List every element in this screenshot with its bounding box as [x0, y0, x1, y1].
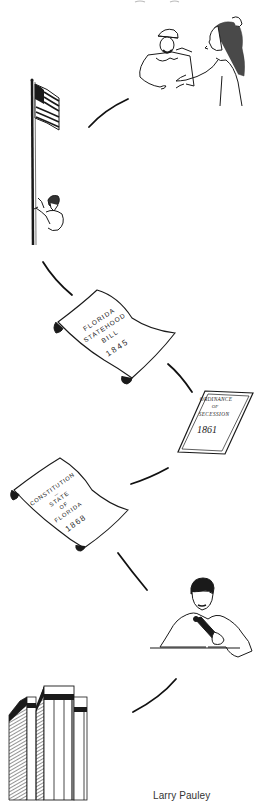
- florida-history-illustration: FLORIDA STATEHOOD BILL 1845 ORDINANCE OF…: [0, 0, 270, 809]
- artist-credit: Larry Pauley: [153, 790, 210, 801]
- connector-arc-2: [43, 262, 72, 295]
- constitution-scroll: CONSTITUTION — STATE OF FLORIDA 1868: [11, 458, 128, 551]
- secession-year: 1861: [197, 424, 217, 435]
- flagpole: [32, 80, 33, 245]
- native-figure: [176, 17, 245, 106]
- flag-raising-scene: [31, 79, 64, 246]
- connector-arc-4: [131, 468, 168, 484]
- statehood-bill-scroll: FLORIDA STATEHOOD BILL 1845: [54, 290, 175, 384]
- us-flag-icon: [35, 84, 59, 130]
- top-edge-fragment: [135, 1, 179, 2]
- secession-line-2: OF: [212, 404, 218, 409]
- connector-arc-6: [133, 679, 176, 712]
- secession-line-1: ORDINANCE: [200, 396, 233, 402]
- man-raising-flag: [34, 196, 63, 231]
- connector-arc-3: [168, 364, 192, 392]
- connector-arc-5: [118, 553, 147, 590]
- connector-arc-1: [89, 99, 128, 127]
- capitol-building: [9, 686, 87, 800]
- secession-line-3: SECESSION: [199, 411, 230, 417]
- speaker-scene: [150, 578, 252, 657]
- secession-document: ORDINANCE OF SECESSION 1861: [178, 391, 253, 454]
- first-contact-scene: [140, 17, 245, 106]
